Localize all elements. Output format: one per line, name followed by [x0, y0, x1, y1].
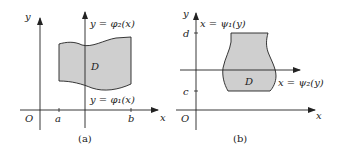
panel-a: y x O a b D y = φ₂(x) y = φ₁(x) (a) — [20, 11, 166, 144]
region-label: D — [244, 76, 253, 87]
y-axis-label: y — [182, 8, 189, 19]
upper-curve-label: y = φ₂(x) — [89, 18, 135, 29]
panel-b: y x O c d D x = ψ₁(y) x = ψ₂(y) (b) — [176, 8, 324, 144]
y-axis-label: y — [24, 11, 31, 22]
x-axis-label: x — [316, 110, 322, 121]
tick-c-label: c — [183, 86, 189, 97]
caption-b: (b) — [233, 133, 247, 144]
origin-label: O — [25, 113, 33, 124]
right-curve-label: x = ψ₂(y) — [278, 77, 324, 88]
origin-label: O — [181, 113, 189, 124]
x-axis-label: x — [160, 112, 166, 123]
tick-d-label: d — [183, 28, 189, 39]
integration-regions-figure: y x O a b D y = φ₂(x) y = φ₁(x) (a) y x … — [0, 0, 341, 158]
region-label: D — [90, 61, 99, 72]
left-curve-label: x = ψ₁(y) — [200, 18, 246, 29]
tick-b-label: b — [128, 113, 134, 124]
caption-a: (a) — [78, 133, 92, 144]
tick-a-label: a — [55, 113, 61, 124]
lower-curve-label: y = φ₁(x) — [89, 94, 135, 105]
